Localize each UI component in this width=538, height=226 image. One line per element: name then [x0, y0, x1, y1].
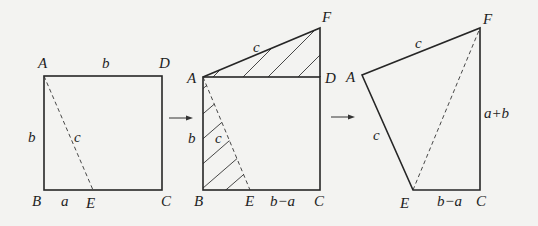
segment-ef-dashed	[413, 28, 480, 190]
label-point-b: B	[32, 193, 41, 209]
label-segment-be-a: a	[61, 193, 69, 209]
label-point-d: D	[324, 70, 336, 86]
label-point-a: A	[37, 55, 48, 71]
arrow-head-icon	[186, 116, 193, 121]
label-diagonal-c: c	[74, 129, 81, 145]
arrow-2	[331, 115, 355, 120]
label-point-e: E	[85, 195, 95, 211]
label-side-top-b: b	[102, 55, 110, 71]
figure-3-trapezoid: F c A c a+b E b−a C	[345, 11, 510, 211]
label-segment-af-c: c	[253, 39, 260, 55]
label-side-left-b: b	[28, 129, 36, 145]
segment-ae-dashed	[44, 76, 93, 190]
label-point-d: D	[158, 55, 170, 71]
label-point-b: B	[194, 193, 203, 209]
label-point-f: F	[321, 9, 332, 25]
pythagorean-rearrangement-diagram: A b D b c B a E C F	[0, 0, 538, 226]
label-point-e: E	[244, 193, 254, 209]
label-segment-ec: b−a	[270, 193, 295, 209]
label-point-c: C	[476, 193, 487, 209]
label-segment-fc: a+b	[484, 105, 510, 121]
label-point-e: E	[399, 195, 409, 211]
label-point-c: C	[161, 193, 172, 209]
segment-ae-dashed	[203, 77, 250, 190]
figure-1-square: A b D b c B a E C	[28, 55, 172, 211]
label-point-a: A	[186, 70, 197, 86]
label-side-left-b: b	[188, 130, 196, 146]
label-segment-ec: b−a	[437, 193, 462, 209]
triangle-afd-edges	[203, 28, 320, 77]
label-point-a: A	[345, 69, 356, 85]
label-point-f: F	[482, 11, 493, 27]
square-abcd	[44, 76, 162, 190]
label-point-c: C	[314, 193, 325, 209]
label-segment-ae-c: c	[373, 127, 380, 143]
label-segment-ae-c: c	[215, 130, 222, 146]
figure-2-cut-square: F c A D b c B E b−a C	[186, 9, 340, 209]
arrow-1	[169, 116, 193, 121]
arrow-head-icon	[348, 115, 355, 120]
label-segment-af-c: c	[415, 35, 422, 51]
trapezoid-afce	[362, 28, 480, 190]
